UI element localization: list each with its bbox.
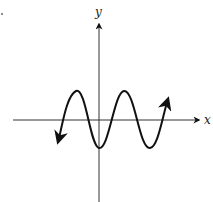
y-axis-label: y [94, 5, 102, 19]
x-axis-label: x [204, 113, 211, 127]
sine-curve [58, 91, 168, 148]
function-graph: x y [0, 0, 213, 202]
stray-dot [1, 13, 3, 15]
